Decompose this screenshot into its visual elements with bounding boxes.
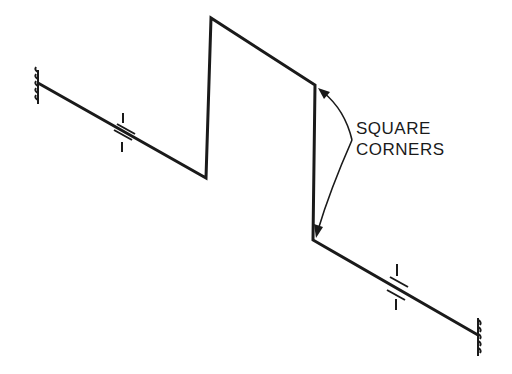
annotation-line2: CORNERS (356, 140, 445, 160)
pipe-diagram (0, 0, 512, 374)
pipe-run (38, 18, 478, 335)
right-anchor-icon (478, 318, 481, 356)
annotation-line1: SQUARE (356, 119, 431, 139)
lower-arrowhead-icon (314, 224, 323, 238)
left-anchor-icon (35, 67, 38, 104)
leader-arrows (314, 88, 352, 238)
